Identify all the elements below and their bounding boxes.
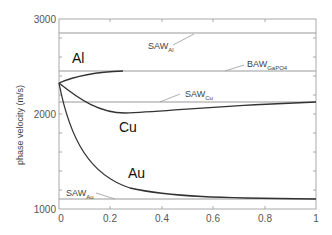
xtick-0.6: 0.6 <box>206 213 220 224</box>
label-cu: Cu <box>119 119 137 135</box>
y-axis-label: phase velocity (m/s) <box>15 85 25 165</box>
ytick-2000: 2000 <box>34 109 57 120</box>
xtick-0.8: 0.8 <box>258 213 272 224</box>
xtick-1: 1 <box>313 213 319 224</box>
plot-frame <box>59 19 316 209</box>
chart: Al Cu Au SAWAl BAWGaPO4 SAWCu SAWAu 3000… <box>0 0 332 235</box>
label-au: Au <box>128 165 145 181</box>
ytick-3000: 3000 <box>34 14 57 25</box>
xtick-0: 0 <box>58 213 64 224</box>
ytick-1000: 1000 <box>34 204 57 215</box>
xtick-0.2: 0.2 <box>103 213 117 224</box>
xtick-0.4: 0.4 <box>155 213 169 224</box>
label-al: Al <box>72 50 84 66</box>
